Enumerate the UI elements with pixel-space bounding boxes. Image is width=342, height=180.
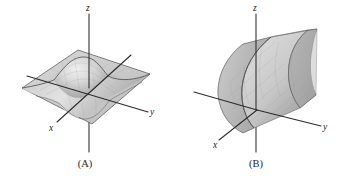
x-axis-label-b: x <box>212 140 218 150</box>
x-axis-label-a: x <box>48 123 54 133</box>
panel-b: x y z (B) <box>171 0 342 180</box>
figure-container: x y z (A) <box>0 0 342 180</box>
panel-b-plot: x y z (B) <box>171 0 342 180</box>
y-axis-label-a: y <box>149 107 155 117</box>
z-axis-label-a: z <box>85 3 90 13</box>
panel-a: x y z (A) <box>0 0 171 180</box>
y-axis-label-b: y <box>322 122 328 132</box>
panel-b-caption: (B) <box>249 158 264 170</box>
z-axis-label-b: z <box>252 3 257 13</box>
panel-a-caption: (A) <box>78 158 93 170</box>
panel-a-plot: x y z (A) <box>0 0 171 180</box>
